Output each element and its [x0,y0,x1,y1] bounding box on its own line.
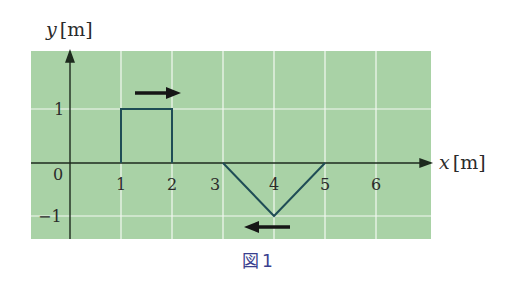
x-tick-3: 3 [210,175,220,194]
x-tick-5: 5 [320,175,330,194]
wave-pulse-figure: y[m] x[m] 0 1 2 3 4 5 6 1 −1 図1 [0,0,528,292]
x-axis-unit: [m] [453,151,486,173]
x-axis-variable: x [439,151,450,173]
y-axis-variable: y [45,18,57,40]
x-axis-label: x[m] [439,151,486,173]
x-tick-1: 1 [116,175,126,194]
y-axis-unit: [m] [60,18,93,40]
figure-caption: 図1 [242,251,273,271]
caption-glyph: 図 [242,251,259,271]
origin-label: 0 [53,165,63,184]
y-axis-label: y[m] [45,18,93,40]
x-tick-6: 6 [371,175,381,194]
x-tick-4: 4 [269,175,279,194]
graph-panel [31,51,431,239]
y-tick-minus-1: −1 [38,207,62,226]
x-tick-2: 2 [167,175,177,194]
caption-number: 1 [262,251,273,271]
y-tick-1: 1 [54,100,64,119]
